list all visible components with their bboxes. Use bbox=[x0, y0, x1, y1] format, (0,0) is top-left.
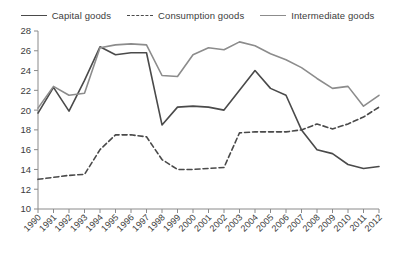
y-tick-label: 14 bbox=[20, 164, 31, 175]
plot-svg: 10121416182022242628 1990199119921993199… bbox=[0, 0, 395, 254]
y-tick-label: 22 bbox=[20, 85, 31, 96]
y-axis: 10121416182022242628 bbox=[20, 25, 38, 214]
y-tick-label: 18 bbox=[20, 124, 31, 135]
plot-area: 10121416182022242628 1990199119921993199… bbox=[0, 0, 395, 254]
line-chart: Capital goods Consumption goods Intermed… bbox=[0, 0, 395, 254]
y-tick-label: 12 bbox=[20, 184, 31, 195]
y-tick-label: 10 bbox=[20, 203, 31, 214]
y-tick-label: 24 bbox=[20, 65, 31, 76]
series-capital-goods bbox=[38, 47, 379, 169]
y-tick-label: 20 bbox=[20, 105, 31, 116]
y-tick-label: 28 bbox=[20, 25, 31, 36]
series-lines bbox=[38, 42, 379, 179]
x-axis: 1990199119921993199419951996199719981999… bbox=[22, 209, 384, 234]
series-consumption-goods bbox=[38, 107, 379, 179]
series-intermediate-goods bbox=[38, 42, 379, 108]
y-tick-label: 26 bbox=[20, 45, 31, 56]
x-tick-label: 2012 bbox=[363, 212, 384, 233]
y-tick-label: 16 bbox=[20, 144, 31, 155]
